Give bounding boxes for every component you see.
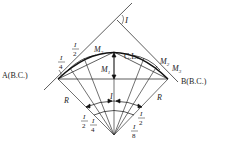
svg-text:8: 8 — [132, 132, 136, 140]
svg-text:I: I — [82, 113, 86, 121]
svg-text:I: I — [59, 54, 63, 62]
m1-arrow — [112, 53, 116, 79]
m1-label: M1 — [100, 65, 110, 75]
fraction-top-i4: I 4 — [58, 54, 65, 71]
fraction-bottom-right-i8: I 8 — [131, 123, 138, 140]
svg-text:4: 4 — [59, 63, 63, 71]
tangent-a — [44, 3, 132, 90]
tangent-b — [117, 20, 178, 82]
m2-left-label: M2 — [93, 45, 104, 55]
center-angle-label: I — [109, 92, 113, 101]
svg-text:I: I — [73, 41, 77, 49]
radius-e7 — [114, 66, 157, 135]
svg-text:2: 2 — [139, 119, 143, 127]
curve-diagram: I A(B.C.) B(B.C.) C.L. R R M1 M2 M2 M3 I… — [0, 0, 226, 146]
tangent-lines — [44, 3, 178, 90]
point-a-label: A(B.C.) — [2, 71, 28, 80]
m2-right-label: M2 — [159, 57, 170, 67]
intersection-angle-arc — [122, 15, 124, 24]
svg-text:2: 2 — [82, 122, 86, 130]
radius-left-label: R — [63, 96, 69, 105]
radius-right-label: R — [156, 93, 162, 102]
fraction-bottom-left-i2: I 2 — [81, 113, 88, 130]
fraction-top-i2: I 2 — [72, 41, 79, 58]
fraction-bottom-left-i4: I 4 — [90, 117, 97, 134]
fraction-bottom-right-i2: I 2 — [138, 110, 145, 127]
intersection-angle-label: I — [124, 15, 129, 25]
svg-text:I: I — [132, 123, 136, 131]
point-b-label: B(B.C.) — [181, 77, 207, 86]
svg-text:I: I — [139, 110, 143, 118]
svg-text:4: 4 — [91, 126, 95, 134]
m3-label: M3 — [171, 64, 182, 74]
svg-text:I: I — [91, 117, 95, 125]
svg-text:2: 2 — [73, 50, 77, 58]
centerline-label: C.L. — [124, 52, 138, 61]
